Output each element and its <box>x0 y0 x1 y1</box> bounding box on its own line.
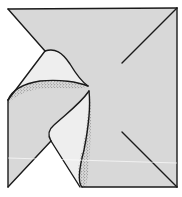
diagram-canvas <box>0 0 182 197</box>
origami-diagram: Square paper with upper-left corner fold… <box>0 0 182 197</box>
edge-top <box>8 8 177 9</box>
